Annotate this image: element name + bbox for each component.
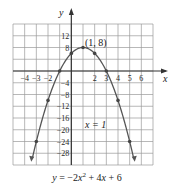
svg-text:8: 8: [65, 44, 69, 53]
x-axis-label: x: [162, 73, 168, 84]
grid: [13, 24, 153, 165]
vertex-label: (1, 8): [85, 37, 107, 49]
tick-labels: −4−3−223456128−4−8−12−16−20−24−28: [20, 32, 143, 159]
y-axis-label: y: [58, 7, 64, 18]
svg-text:−3: −3: [32, 74, 41, 83]
equation-caption: y = −2x2 + 4x + 6: [0, 171, 174, 183]
svg-text:2: 2: [93, 74, 97, 83]
svg-text:12: 12: [61, 32, 69, 41]
svg-text:−12: −12: [57, 102, 70, 111]
svg-text:−4: −4: [61, 79, 70, 88]
svg-text:−8: −8: [61, 91, 70, 100]
svg-text:6: 6: [139, 74, 143, 83]
svg-text:4: 4: [116, 74, 120, 83]
parabola-chart: −4−3−223456128−4−8−12−16−20−24−28 x y (1…: [0, 0, 174, 185]
svg-text:5: 5: [128, 74, 132, 83]
svg-text:−20: −20: [57, 126, 70, 135]
svg-text:−4: −4: [20, 74, 29, 83]
svg-text:−16: −16: [57, 114, 70, 123]
svg-text:−24: −24: [57, 138, 70, 147]
symmetry-label: x = 1: [84, 119, 106, 130]
svg-text:−2: −2: [44, 74, 53, 83]
svg-text:−28: −28: [57, 149, 70, 158]
